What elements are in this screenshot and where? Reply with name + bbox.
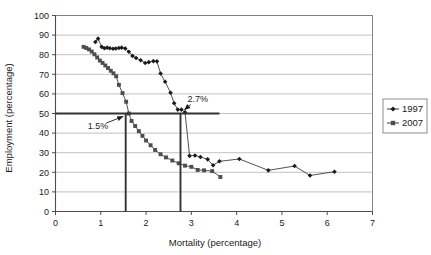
data-point bbox=[141, 134, 145, 138]
data-point bbox=[133, 124, 137, 128]
y-tick-label-100: 100 bbox=[34, 11, 49, 21]
data-point bbox=[193, 153, 198, 158]
series-1997 bbox=[93, 36, 337, 177]
data-point bbox=[149, 143, 153, 147]
x-tick-label-4: 4 bbox=[234, 218, 239, 228]
x-tick-label-1: 1 bbox=[98, 218, 103, 228]
x-tick-label-3: 3 bbox=[189, 218, 194, 228]
y-tick-label-40: 40 bbox=[39, 128, 49, 138]
data-point bbox=[292, 164, 297, 169]
data-point bbox=[144, 139, 148, 143]
data-point bbox=[196, 168, 200, 172]
y-tick-label-0: 0 bbox=[44, 207, 49, 217]
data-point bbox=[134, 56, 139, 61]
data-point bbox=[114, 74, 118, 78]
reference-lines-group bbox=[56, 114, 220, 212]
data-point bbox=[155, 59, 160, 64]
data-point bbox=[170, 159, 174, 163]
legend-label-2007: 2007 bbox=[402, 117, 423, 128]
data-point bbox=[146, 60, 151, 65]
data-point bbox=[237, 157, 242, 162]
axis-ticks-group bbox=[52, 16, 373, 216]
data-point bbox=[121, 91, 125, 95]
y-tick-labels: 0102030405060708090100 bbox=[34, 11, 49, 217]
data-point bbox=[159, 152, 163, 156]
legend-label-1997: 1997 bbox=[402, 103, 423, 114]
legend: 19972007 bbox=[383, 99, 427, 133]
data-point bbox=[163, 79, 168, 84]
y-tick-label-30: 30 bbox=[39, 148, 49, 158]
data-point bbox=[164, 155, 168, 159]
y-tick-label-90: 90 bbox=[39, 30, 49, 40]
data-point bbox=[187, 154, 192, 159]
y-axis-title: Employment (percentage) bbox=[3, 63, 14, 172]
data-point bbox=[202, 168, 206, 172]
data-point bbox=[172, 101, 177, 106]
employment-mortality-chart: 0102030405060708090100 01234567 1.5%2.7%… bbox=[0, 0, 431, 255]
data-point bbox=[168, 90, 173, 95]
data-point bbox=[124, 100, 128, 104]
data-point bbox=[183, 164, 187, 168]
y-tick-label-10: 10 bbox=[39, 187, 49, 197]
data-point bbox=[119, 45, 124, 50]
series-2007 bbox=[82, 45, 223, 179]
x-tick-label-0: 0 bbox=[53, 218, 58, 228]
y-tick-label-80: 80 bbox=[39, 50, 49, 60]
data-point bbox=[210, 169, 214, 173]
data-point bbox=[198, 155, 203, 160]
data-point bbox=[218, 175, 222, 179]
y-tick-label-70: 70 bbox=[39, 70, 49, 80]
x-axis-title: Mortality (percentage) bbox=[169, 237, 261, 248]
data-point bbox=[153, 148, 157, 152]
x-tick-label-5: 5 bbox=[279, 218, 284, 228]
data-point bbox=[130, 119, 134, 123]
annotation-label-27: 2.7% bbox=[187, 94, 208, 104]
x-tick-label-2: 2 bbox=[144, 218, 149, 228]
x-tick-label-6: 6 bbox=[325, 218, 330, 228]
data-point bbox=[158, 71, 163, 76]
y-tick-label-50: 50 bbox=[39, 109, 49, 119]
legend-marker-2007 bbox=[391, 121, 395, 125]
data-point bbox=[189, 165, 193, 169]
data-point bbox=[143, 61, 148, 66]
data-point bbox=[217, 159, 222, 164]
data-point bbox=[332, 169, 337, 174]
chart-container: 0102030405060708090100 01234567 1.5%2.7%… bbox=[0, 0, 431, 255]
annotation-arrow-head bbox=[117, 116, 124, 121]
data-point bbox=[138, 58, 143, 63]
y-tick-label-20: 20 bbox=[39, 168, 49, 178]
data-point bbox=[117, 83, 121, 87]
data-point bbox=[308, 173, 313, 178]
series-line-1997 bbox=[95, 39, 334, 176]
annotation-label-15: 1.5% bbox=[88, 121, 109, 131]
y-tick-label-60: 60 bbox=[39, 89, 49, 99]
data-series-group bbox=[82, 36, 337, 179]
x-tick-label-7: 7 bbox=[370, 218, 375, 228]
data-point bbox=[137, 129, 141, 133]
x-tick-labels: 01234567 bbox=[53, 218, 375, 228]
